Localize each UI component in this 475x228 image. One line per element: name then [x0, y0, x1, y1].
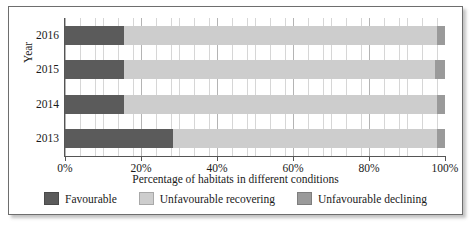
x-tick-mark [293, 156, 294, 161]
x-tick-mark [369, 156, 370, 161]
legend-label: Unfavourable declining [318, 193, 427, 205]
chart-figure-frame: Year 2016201520142013 0%20%40%60%80%100%… [8, 6, 463, 215]
bar-segment-unfavourable-declining [437, 26, 445, 45]
legend-item: Favourable [44, 192, 117, 205]
x-axis-title: Percentage of habitats in different cond… [9, 173, 462, 185]
y-tick-label: 2014 [19, 95, 59, 114]
y-tick-label: 2015 [19, 60, 59, 79]
x-tick-mark [217, 156, 218, 161]
bar-row: 2013 [65, 129, 445, 148]
bar-segment-unfavourable-declining [437, 129, 445, 148]
bar-segment-unfavourable-declining [435, 60, 445, 79]
bar-row: 2016 [65, 26, 445, 45]
legend-swatch-icon [139, 192, 154, 205]
bar-segment-unfavourable-recovering [173, 129, 437, 148]
bar-segment-unfavourable-recovering [124, 60, 436, 79]
y-tick-label: 2016 [19, 26, 59, 45]
chart-legend: FavourableUnfavourable recoveringUnfavou… [9, 192, 462, 205]
x-tick-mark [141, 156, 142, 161]
bar-segment-favourable [65, 95, 124, 114]
legend-swatch-icon [297, 192, 312, 205]
legend-item: Unfavourable recovering [139, 192, 275, 205]
bar-row: 2015 [65, 60, 445, 79]
bar-segment-favourable [65, 26, 124, 45]
bar-row: 2014 [65, 95, 445, 114]
bar-segment-unfavourable-declining [437, 95, 445, 114]
bar-segment-unfavourable-recovering [124, 26, 438, 45]
bar-segment-favourable [65, 60, 124, 79]
legend-label: Favourable [65, 193, 117, 205]
plot-area: 2016201520142013 0%20%40%60%80%100% [64, 18, 445, 157]
x-tick-mark [445, 156, 446, 161]
bar-segment-favourable [65, 129, 173, 148]
legend-swatch-icon [44, 192, 59, 205]
bar-segment-unfavourable-recovering [124, 95, 438, 114]
y-tick-label: 2013 [19, 129, 59, 148]
x-tick-mark [65, 156, 66, 161]
legend-label: Unfavourable recovering [160, 193, 275, 205]
legend-item: Unfavourable declining [297, 192, 427, 205]
